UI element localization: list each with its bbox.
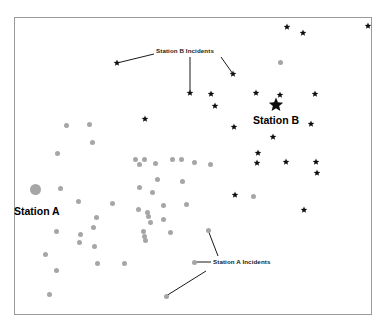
data-point-star bbox=[142, 116, 149, 122]
data-point-star bbox=[269, 98, 283, 112]
station-b-label: Station B bbox=[253, 114, 299, 126]
scatter-plot-figure: Station B Incidents Station A Incidents … bbox=[0, 0, 387, 331]
data-point-star bbox=[277, 92, 284, 98]
annotation-leader-line bbox=[117, 54, 154, 63]
data-point-star bbox=[284, 24, 291, 30]
annotation-station-a-incidents: Station A Incidents bbox=[213, 258, 270, 265]
annotation-station-b-incidents: Station B Incidents bbox=[156, 47, 214, 54]
annotation-leader-line bbox=[166, 271, 206, 296]
data-point-star bbox=[314, 170, 321, 176]
data-point-star bbox=[231, 124, 238, 130]
data-point-star bbox=[283, 159, 290, 165]
data-point-star bbox=[255, 150, 262, 156]
data-point-star bbox=[232, 192, 239, 198]
data-point-star bbox=[308, 121, 315, 127]
station-a-label: Station A bbox=[14, 205, 60, 217]
data-point-star bbox=[301, 207, 308, 213]
annotation-leader-line bbox=[221, 57, 233, 74]
data-point-star bbox=[212, 103, 219, 109]
data-point-star bbox=[254, 160, 261, 166]
data-point-star bbox=[300, 30, 307, 36]
data-point-star bbox=[270, 134, 277, 140]
annotation-leader-line bbox=[208, 230, 218, 256]
data-point-star bbox=[253, 90, 260, 96]
data-point-star bbox=[312, 91, 319, 97]
data-point-star bbox=[365, 23, 372, 29]
data-point-star bbox=[313, 159, 320, 165]
data-point-star bbox=[208, 91, 215, 97]
